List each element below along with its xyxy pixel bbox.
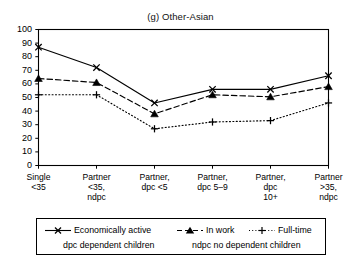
data-point-marker — [151, 125, 158, 132]
x-axis-tick-label: Partner,dpc <5 — [126, 172, 184, 192]
x-axis-tick-label: Partner,dpc 5–9 — [184, 172, 242, 192]
data-point-marker — [151, 110, 159, 117]
x-axis-tick-label-line: Partner, — [184, 172, 242, 182]
series-economically-active — [35, 44, 331, 106]
legend-swatch-plus-dotted-icon — [249, 225, 275, 236]
x-axis-tick-label-line: Single — [10, 172, 68, 182]
legend-label-full-time: Full-time — [278, 225, 312, 235]
x-axis-tick-label-line: Partner, — [242, 172, 300, 182]
x-axis-tick-label-line: Partner, — [126, 172, 184, 182]
x-axis-tick-label-line: Partner — [68, 172, 126, 182]
chart-legend: Economically active In work Full-time — [36, 218, 326, 255]
legend-note-dpc: dpc dependent children — [63, 240, 154, 250]
x-axis-tick-label-line: 10+ — [242, 192, 300, 202]
x-axis-tick-label-line: <35, — [68, 182, 126, 192]
y-axis-tick-label: 90 — [6, 39, 32, 48]
x-axis-tick-label-line: <35 — [10, 182, 68, 192]
legend-series-row: Economically active In work Full-time — [37, 222, 325, 238]
plot-frame — [39, 30, 329, 166]
data-point-marker — [93, 64, 99, 70]
data-point-marker — [267, 117, 274, 124]
x-axis-tick-label: Partner<35,ndpc — [68, 172, 126, 203]
chart-figure: (g) Other-Asian 0102030405060708090100 S… — [0, 0, 361, 267]
y-axis-tick-label: 50 — [6, 93, 32, 102]
y-axis-tick-label: 20 — [6, 134, 32, 143]
x-axis-tick-label-line: dpc <5 — [126, 182, 184, 192]
legend-note-ndpc: ndpc no dependent children — [192, 240, 301, 250]
y-axis-tick-label: 100 — [6, 25, 32, 34]
y-axis-tick-label: 0 — [6, 161, 32, 170]
series-full-time — [35, 91, 332, 132]
x-axis-tick-label-line: ndpc — [300, 192, 358, 202]
y-axis-tick-label: 60 — [6, 79, 32, 88]
y-axis-tick-label: 10 — [6, 147, 32, 156]
legend-item-full-time: Full-time — [249, 222, 312, 238]
y-axis-tick-label: 40 — [6, 107, 32, 116]
x-axis-tick-label-line: ndpc — [68, 192, 126, 202]
x-axis-tick-label: Partner,dpc10+ — [242, 172, 300, 203]
legend-swatch-x-solid-icon — [45, 225, 71, 236]
y-axis-tick-label: 80 — [6, 52, 32, 61]
legend-swatch-triangle-dashed-icon — [177, 225, 203, 236]
y-axis-tick-label: 70 — [6, 66, 32, 75]
series-line — [39, 95, 329, 129]
x-axis-tick-label-line: dpc 5–9 — [184, 182, 242, 192]
data-point-marker — [325, 99, 332, 106]
legend-label-in-work: In work — [206, 225, 234, 235]
legend-item-economically-active: Economically active — [45, 222, 151, 238]
legend-item-in-work: In work — [177, 222, 234, 238]
data-point-marker — [325, 83, 333, 90]
x-axis-tick-label: Single<35 — [10, 172, 68, 192]
y-axis-tick-label: 30 — [6, 120, 32, 129]
x-axis-tick-label-line: >35, — [300, 182, 358, 192]
data-point-marker — [93, 91, 100, 98]
x-axis-tick-label: Partner>35,ndpc — [300, 172, 358, 203]
x-axis-tick-label-line: Partner — [300, 172, 358, 182]
legend-label-economically-active: Economically active — [74, 225, 151, 235]
x-axis-tick-label-line: dpc — [242, 182, 300, 192]
data-point-marker — [209, 118, 216, 125]
